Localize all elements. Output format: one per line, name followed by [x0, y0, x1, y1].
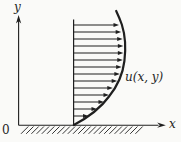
velocity-arrowhead-icon: [118, 44, 124, 48]
y-axis-label: y: [14, 1, 21, 13]
velocity-arrowhead-icon: [112, 79, 118, 83]
velocity-arrowhead-icon: [114, 72, 120, 76]
origin-label: 0: [2, 124, 10, 136]
x-axis-label: x: [169, 118, 176, 130]
velocity-arrowhead-icon: [117, 58, 123, 62]
velocity-arrowhead-icon: [116, 30, 122, 34]
velocity-arrowhead-icon: [118, 51, 124, 55]
velocity-profile-figure: y x 0 u(x, y): [0, 0, 181, 142]
velocity-arrowhead-icon: [114, 23, 120, 27]
ground-hatching: [21, 127, 143, 134]
velocity-arrowhead-icon: [117, 37, 123, 41]
velocity-arrowhead-icon: [107, 86, 113, 90]
velocity-arrows: [74, 23, 124, 118]
velocity-arrowhead-icon: [116, 65, 122, 69]
velocity-function-label: u(x, y): [125, 71, 163, 83]
